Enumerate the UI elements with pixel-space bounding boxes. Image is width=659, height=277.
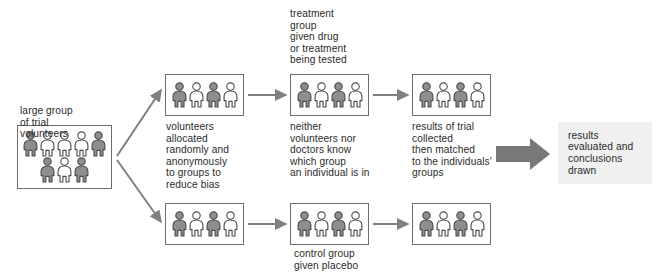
results-evaluation-panel: results evaluated and conclusions drawn xyxy=(558,122,652,184)
caption-large-group: large group of trial volunteers xyxy=(20,105,120,140)
person-icon-gray xyxy=(73,157,90,183)
person-icon-gray xyxy=(452,82,469,108)
allocated-treatment-arm-box xyxy=(165,74,244,116)
caption-evaluation: results evaluated and conclusions drawn xyxy=(558,130,633,176)
caption-results-collected: results of trial collected then matched … xyxy=(412,121,522,179)
control-results-box-row-0 xyxy=(418,211,486,237)
control-group-box-row-0 xyxy=(296,211,364,237)
person-icon-gray xyxy=(171,211,188,237)
person-icon-gray xyxy=(205,211,222,237)
person-icon-white xyxy=(347,211,364,237)
allocated-control-arm-box-row-0 xyxy=(171,211,239,237)
person-icon-white xyxy=(469,82,486,108)
allocated-control-arm-box xyxy=(165,203,244,245)
person-icon-gray xyxy=(205,82,222,108)
treatment-group-box xyxy=(290,74,369,116)
person-icon-white xyxy=(435,211,452,237)
person-icon-white xyxy=(347,82,364,108)
person-icon-white xyxy=(56,157,73,183)
treatment-results-box xyxy=(412,74,491,116)
person-icon-gray xyxy=(171,82,188,108)
person-icon-white xyxy=(313,211,330,237)
treatment-results-box-row-0 xyxy=(418,82,486,108)
person-icon-white xyxy=(222,211,239,237)
caption-allocation: volunteers allocated randomly and anonym… xyxy=(166,121,266,191)
person-icon-gray xyxy=(39,157,56,183)
person-icon-gray xyxy=(418,211,435,237)
person-icon-white xyxy=(313,82,330,108)
person-icon-gray xyxy=(330,211,347,237)
person-icon-gray xyxy=(418,82,435,108)
arrow-split-to-control-arm xyxy=(117,160,161,222)
person-icon-gray xyxy=(296,211,313,237)
caption-blinding: neither volunteers nor doctors know whic… xyxy=(290,121,400,179)
person-icon-gray xyxy=(452,211,469,237)
clinical-trial-flow-diagram: large group of trial volunteersvolunteer… xyxy=(0,0,659,277)
arrow-split-to-treatment-arm xyxy=(117,90,161,156)
control-results-box xyxy=(412,203,491,245)
caption-control-group: control group given placebo xyxy=(294,248,404,271)
person-icon-white xyxy=(222,82,239,108)
person-icon-gray xyxy=(330,82,347,108)
person-icon-white xyxy=(188,82,205,108)
person-icon-white xyxy=(469,211,486,237)
control-group-box xyxy=(290,203,369,245)
allocated-treatment-arm-box-row-0 xyxy=(171,82,239,108)
caption-treatment-group: treatment group given drug or treatment … xyxy=(290,8,390,66)
treatment-group-box-row-0 xyxy=(296,82,364,108)
person-icon-white xyxy=(435,82,452,108)
person-icon-gray xyxy=(296,82,313,108)
large-group-of-volunteers-box-row-1 xyxy=(39,157,90,183)
person-icon-white xyxy=(188,211,205,237)
